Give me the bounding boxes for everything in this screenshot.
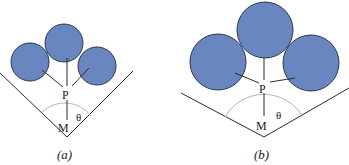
label-m-b: M xyxy=(256,119,267,133)
circle-left-a xyxy=(11,43,49,81)
label-p-b: P xyxy=(259,82,266,96)
radius-left-a xyxy=(42,70,63,87)
circle-left-b xyxy=(190,34,246,90)
label-p-a: P xyxy=(62,88,69,102)
caption-b: (b) xyxy=(254,147,269,162)
circle-right-a xyxy=(78,47,116,85)
label-theta-b: θ xyxy=(276,109,281,121)
caption-a: (a) xyxy=(57,147,72,162)
circle-top-a xyxy=(45,24,83,62)
diagram-canvas: P M θ (a) P M θ (b) xyxy=(0,0,349,165)
label-theta-a: θ xyxy=(76,111,81,123)
panel-b: P M θ (b) xyxy=(181,2,349,162)
circle-top-b xyxy=(237,2,293,58)
label-m-a: M xyxy=(58,121,69,135)
panel-a: P M θ (a) xyxy=(0,24,133,162)
circle-right-b xyxy=(283,35,339,91)
